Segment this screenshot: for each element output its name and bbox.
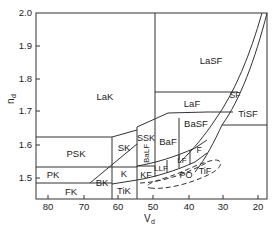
region-balf: BaLF	[142, 144, 151, 163]
region-laf: LaF	[184, 98, 201, 109]
region-bk: BK	[96, 177, 109, 188]
region-sk: SK	[118, 142, 131, 153]
region-po: PO	[179, 170, 192, 180]
y-axis-title: n d	[5, 94, 17, 104]
region-lf: LF	[177, 156, 186, 165]
region-fk: FK	[65, 186, 78, 197]
region-f: F	[196, 145, 201, 155]
region-tik: TiK	[117, 185, 132, 196]
x-tick-label: 50	[148, 201, 159, 212]
x-tick-label: 80	[43, 201, 54, 212]
svg-text:V: V	[144, 213, 151, 224]
y-tick-label: 1.7	[19, 105, 32, 116]
y-tick-label: 1.8	[19, 73, 32, 84]
region-kf: KF	[140, 170, 152, 180]
region-tisf: TiSF	[238, 108, 258, 119]
region-tif: TiF	[199, 166, 212, 176]
x-tick-label: 40	[184, 201, 195, 212]
y-tick-label: 1.5	[19, 172, 32, 183]
svg-text:d: d	[10, 94, 17, 98]
region-psk: PSK	[66, 148, 86, 159]
region-sf: SF	[230, 90, 241, 100]
svg-text:n: n	[5, 98, 16, 104]
x-tick-label: 70	[79, 201, 90, 212]
region-k: K	[121, 168, 128, 179]
svg-text:d: d	[151, 218, 155, 225]
region-basf: BaSF	[184, 118, 208, 129]
abbe-diagram: 2.0 1.9 1.8 1.7 1.6 1.5 80 70 60 50 40 3…	[0, 0, 275, 233]
region-lasf: LaSF	[200, 55, 223, 66]
region-lak: LaK	[97, 91, 115, 102]
region-pk: PK	[47, 169, 60, 180]
y-tick-label: 1.6	[19, 139, 32, 150]
region-baf: BaF	[159, 136, 177, 147]
x-tick-label: 30	[218, 201, 229, 212]
y-tick-label: 2.0	[19, 7, 32, 18]
x-tick-label: 60	[113, 201, 124, 212]
region-ssk: SSK	[137, 133, 155, 143]
region-llf: LLF	[154, 164, 168, 173]
x-tick-label: 20	[253, 201, 264, 212]
x-axis-title: V d	[144, 213, 155, 225]
y-tick-label: 1.9	[19, 40, 32, 51]
